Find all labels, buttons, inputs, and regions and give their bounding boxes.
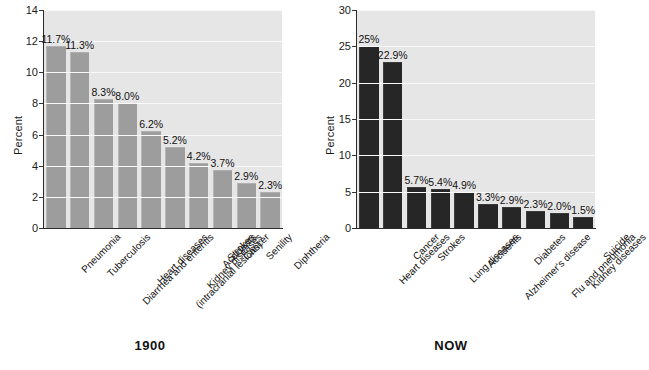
bar-value-label: 11.3% <box>58 39 102 51</box>
bar-value-label: 22.9% <box>371 49 415 61</box>
bar-value-label: 25% <box>347 33 391 45</box>
panel-title-now: NOW <box>300 338 602 353</box>
bar-value-label: 5.2% <box>153 134 197 146</box>
bar-value-label: 1.5% <box>561 204 605 216</box>
bar-value-label: 3.7% <box>201 157 245 169</box>
panel-title-1900: 1900 <box>0 338 300 353</box>
chart-panel-1900: Percent 02468101214 PneumoniaTuberculosi… <box>0 0 300 370</box>
bar-value-label: 4.9% <box>442 179 486 191</box>
bar-value-label: 8.0% <box>105 90 149 102</box>
bar-value-label: 2.3% <box>248 179 292 191</box>
bar-value-label: 6.2% <box>129 118 173 130</box>
chart-panel-now: Percent 051015202530 Heart diseasesCance… <box>300 0 602 370</box>
